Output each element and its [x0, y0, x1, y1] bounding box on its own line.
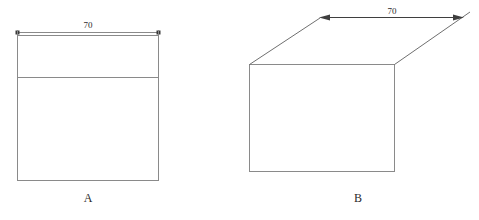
- figure-b-front-face-fill: [249, 64, 395, 172]
- figure-a-dimension-value: 70: [84, 20, 94, 30]
- figure-a-face-fill: [17, 35, 159, 181]
- figure-a: 70 A: [16, 20, 161, 205]
- figure-a-label: A: [84, 191, 93, 205]
- technical-drawing-canvas: 70 A 70 B: [0, 0, 479, 220]
- figure-b-label: B: [354, 191, 362, 205]
- figure-b-dimension-value: 70: [388, 6, 398, 16]
